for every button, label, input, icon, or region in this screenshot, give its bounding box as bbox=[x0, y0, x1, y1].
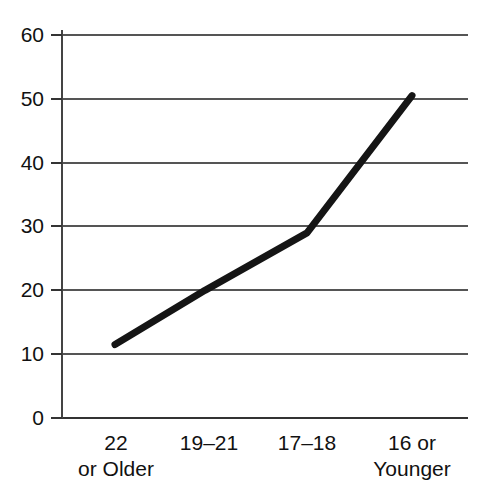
xtick-label-line1: 17–18 bbox=[247, 430, 367, 456]
ytick-label-0: 0 bbox=[4, 407, 44, 428]
xtick-label-16-or-younger: 16 or Younger bbox=[352, 430, 472, 482]
xtick-label-line2: or Older bbox=[56, 456, 176, 482]
xtick-label-line2: Younger bbox=[352, 456, 472, 482]
ytick-label-10: 10 bbox=[4, 343, 44, 364]
xtick-label-17-18: 17–18 bbox=[247, 430, 367, 456]
ytick-label-20: 20 bbox=[4, 279, 44, 300]
y-axis-ticks bbox=[51, 35, 62, 418]
ytick-label-40: 40 bbox=[4, 152, 44, 173]
xtick-label-line1: 16 or bbox=[352, 430, 472, 456]
line-chart: 60 50 40 30 20 10 0 22 or Older 19–21 17… bbox=[0, 0, 495, 501]
chart-plot-area bbox=[0, 0, 495, 501]
ytick-label-30: 30 bbox=[4, 215, 44, 236]
gridlines bbox=[62, 35, 468, 354]
ytick-label-50: 50 bbox=[4, 88, 44, 109]
ytick-label-60: 60 bbox=[4, 24, 44, 45]
data-series-line bbox=[115, 96, 412, 345]
